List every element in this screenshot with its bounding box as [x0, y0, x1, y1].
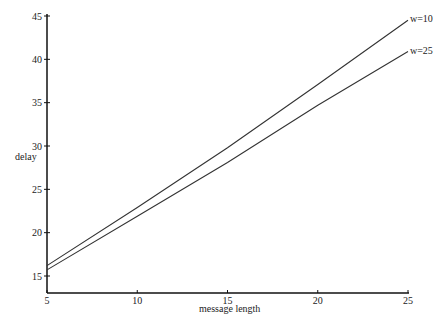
y-tick-label: 15	[32, 271, 42, 282]
y-axis-label: delay	[15, 151, 37, 162]
series-labels: w=10w=25	[410, 13, 433, 55]
x-tick-label: 20	[313, 295, 323, 306]
y-tick-label: 30	[32, 141, 42, 152]
y-tick-label: 25	[32, 184, 42, 195]
x-tick-label: 5	[45, 295, 50, 306]
y-tick-label: 40	[32, 54, 42, 65]
x-tick-label: 10	[132, 295, 142, 306]
x-tick-label: 25	[403, 295, 413, 306]
y-tick-label: 45	[32, 11, 42, 22]
series-line-w-10	[47, 20, 408, 265]
series-line-w-25	[47, 52, 408, 270]
y-tick-label: 35	[32, 97, 42, 108]
series-label: w=10	[410, 13, 433, 24]
line-chart: 15202530354045 510152025 w=10w=25 delay …	[0, 0, 442, 326]
series-lines	[47, 20, 408, 270]
axes	[47, 14, 409, 293]
y-tick-label: 20	[32, 227, 42, 238]
x-axis-label: message length	[199, 303, 260, 314]
series-label: w=25	[410, 45, 433, 56]
